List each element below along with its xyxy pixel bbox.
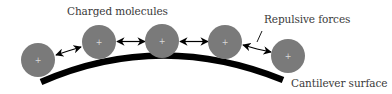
forces-leader-line bbox=[257, 31, 262, 42]
molecule: + bbox=[82, 25, 116, 59]
molecule: + bbox=[145, 24, 179, 58]
molecule: + bbox=[271, 39, 305, 73]
plus-icon: + bbox=[159, 37, 166, 46]
force-arrow bbox=[257, 49, 271, 52]
cantilever-surface bbox=[41, 55, 283, 82]
label-repulsive-forces: Repulsive forces bbox=[264, 13, 350, 25]
force-arrow bbox=[243, 45, 257, 49]
label-charged-molecules: Charged molecules bbox=[67, 5, 168, 17]
force-arrow bbox=[68, 47, 81, 51]
label-cantilever-surface: Cantilever surface bbox=[291, 77, 387, 89]
cantilever-diagram: + + + + + Charged molecules Repulsive fo… bbox=[0, 0, 392, 94]
molecule: + bbox=[208, 25, 242, 59]
plus-icon: + bbox=[96, 38, 103, 47]
plus-icon: + bbox=[222, 38, 229, 47]
force-arrow bbox=[56, 51, 68, 55]
plus-icon: + bbox=[285, 52, 292, 61]
plus-icon: + bbox=[35, 56, 42, 65]
molecule: + bbox=[21, 43, 55, 77]
